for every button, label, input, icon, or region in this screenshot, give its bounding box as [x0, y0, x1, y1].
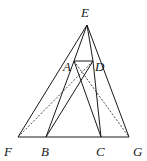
point-label-a: A [62, 59, 71, 74]
point-label-e: E [80, 5, 89, 20]
labels-group: E A D F B C G [3, 5, 143, 159]
segment-fd [18, 61, 93, 137]
segment-ed [87, 25, 93, 61]
segment-eg [87, 25, 129, 137]
geometry-diagram: E A D F B C G [0, 0, 147, 161]
segments-group [18, 25, 129, 137]
point-label-c: C [96, 144, 105, 159]
point-label-f: F [3, 144, 13, 159]
point-label-d: D [94, 59, 105, 74]
point-label-g: G [133, 144, 143, 159]
point-label-b: B [41, 144, 49, 159]
